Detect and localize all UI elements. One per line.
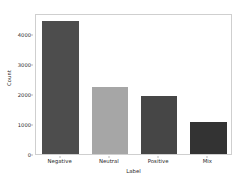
x-tick-label-neutral: Neutral	[99, 158, 119, 164]
y-tick-label: 2000	[18, 92, 31, 98]
y-tick-mark	[31, 125, 33, 126]
bar-positive	[141, 96, 177, 155]
x-tick-label-negative: Negative	[48, 158, 72, 164]
bar-neutral	[92, 87, 128, 155]
y-tick-mark	[31, 35, 33, 36]
x-axis-tick-labels: NegativeNeutralPositiveMix	[35, 156, 232, 168]
bar-series	[36, 15, 231, 154]
y-tick-mark	[31, 155, 33, 156]
y-tick-label: 4000	[18, 32, 31, 38]
plot-area	[35, 14, 232, 155]
bar-negative	[42, 21, 78, 155]
bar-chart-figure: Count 01000200030004000 NegativeNeutralP…	[0, 0, 243, 181]
x-tick-label-positive: Positive	[148, 158, 169, 164]
bar-mix	[190, 122, 226, 154]
x-axis-title: Label	[35, 168, 232, 174]
y-axis-title-text: Count	[6, 70, 12, 86]
y-tick-label: 1000	[18, 122, 31, 128]
y-tick-mark	[31, 65, 33, 66]
y-tick-mark	[31, 95, 33, 96]
x-tick-label-mix: Mix	[203, 158, 212, 164]
y-tick-label: 3000	[18, 62, 31, 68]
y-axis-tick-labels: 01000200030004000	[14, 0, 33, 181]
